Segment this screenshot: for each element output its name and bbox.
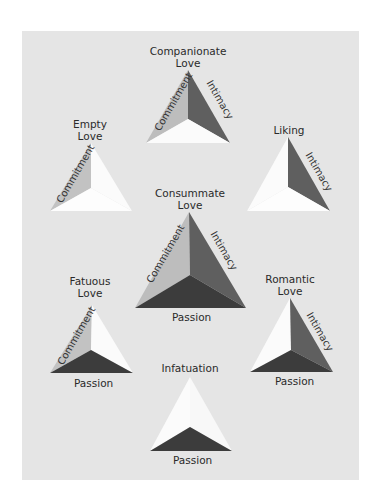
title-consummate-love: Consummate Love xyxy=(155,187,225,211)
title-line: Companionate xyxy=(150,45,227,57)
label-passion: Passion xyxy=(74,377,113,389)
title-line: Infatuation xyxy=(161,362,218,374)
title-line: Love xyxy=(155,199,225,211)
title-line: Love xyxy=(73,130,107,142)
label-passion: Passion xyxy=(173,454,212,466)
title-line: Liking xyxy=(273,124,304,136)
title-fatuous-love: Fatuous Love xyxy=(70,275,111,299)
label-passion: Passion xyxy=(172,311,211,323)
title-infatuation: Infatuation xyxy=(161,362,218,374)
title-empty-love: Empty Love xyxy=(73,118,107,142)
label-passion: Passion xyxy=(275,375,314,387)
title-line: Consummate xyxy=(155,187,225,199)
title-line: Empty xyxy=(73,118,107,130)
title-companionate: Companionate Love xyxy=(150,45,227,69)
title-line: Love xyxy=(150,57,227,69)
title-line: Romantic xyxy=(265,273,314,285)
title-line: Love xyxy=(265,285,314,297)
title-line: Fatuous xyxy=(70,275,111,287)
title-line: Love xyxy=(70,287,111,299)
title-liking: Liking xyxy=(273,124,304,136)
title-romantic-love: Romantic Love xyxy=(265,273,314,297)
triangle-infatuation xyxy=(150,377,232,451)
